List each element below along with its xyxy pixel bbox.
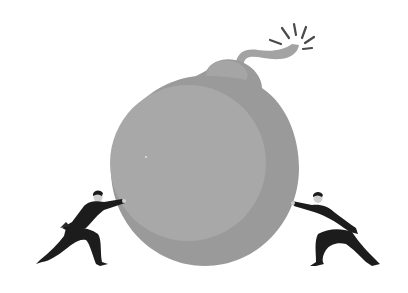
bomb-illustration <box>0 0 408 293</box>
illustration-scene <box>0 0 408 293</box>
